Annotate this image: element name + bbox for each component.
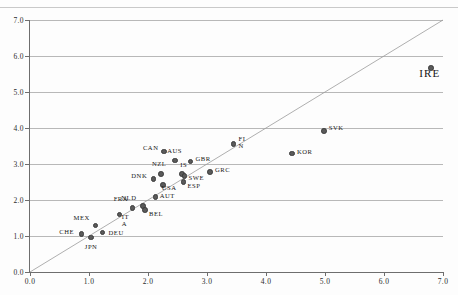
point-label-aut-9: AUT xyxy=(160,192,175,199)
data-point-che[interactable] xyxy=(79,231,85,237)
y-tick-label-4.0: 4.0 xyxy=(0,124,24,133)
point-label-n-21: N xyxy=(239,142,244,149)
point-label-grc-19: GRC xyxy=(215,166,230,173)
point-label-kor-23: KOR xyxy=(297,148,313,155)
y-tick-label-6.0: 6.0 xyxy=(0,52,24,61)
point-label-esp-17: ESP xyxy=(187,182,200,189)
point-label-can-13: CAN xyxy=(143,144,159,151)
point-label-is-15: IS xyxy=(180,161,187,168)
point-label-nzl-11: NZL xyxy=(152,160,166,167)
y-tick-2.0 xyxy=(25,200,30,201)
x-tick-label-1.0: 1.0 xyxy=(74,277,104,286)
y-tick-1.0 xyxy=(25,236,30,237)
data-point-svk[interactable] xyxy=(321,128,327,134)
point-label-a-5: A xyxy=(122,220,127,227)
y-tick-label-7.0: 7.0 xyxy=(0,16,24,25)
data-point-kor[interactable] xyxy=(289,151,295,157)
point-label-fi-20: FI xyxy=(239,135,246,142)
page-top-rule xyxy=(0,7,458,8)
x-tick-label-3.0: 3.0 xyxy=(192,277,222,286)
data-point-can[interactable] xyxy=(161,149,167,155)
x-tick-label-7.0: 7.0 xyxy=(428,277,458,286)
point-label-usa-12: USA xyxy=(162,184,177,191)
point-label-gbr-18: GBR xyxy=(195,155,210,162)
y-tick-7.0 xyxy=(25,20,30,21)
point-label-ire-24: IRE xyxy=(419,70,440,77)
point-label-mex-2: MEX xyxy=(73,214,89,221)
data-point-fi[interactable] xyxy=(231,141,237,147)
data-point-nzl[interactable] xyxy=(158,171,164,177)
x-tick-label-6.0: 6.0 xyxy=(369,277,399,286)
y-tick-5.0 xyxy=(25,92,30,93)
x-tick-label-4.0: 4.0 xyxy=(251,277,281,286)
gridline-y-2.0 xyxy=(30,200,443,201)
point-label-bel-8: BEL xyxy=(149,210,163,217)
point-label-jpn-1: JPN xyxy=(85,243,98,250)
gridline-y-6.0 xyxy=(30,56,443,57)
data-point-aut[interactable] xyxy=(153,194,159,200)
y-tick-4.0 xyxy=(25,128,30,129)
point-label-svk-22: SVK xyxy=(329,124,344,131)
data-point-aus[interactable] xyxy=(172,158,178,164)
point-label-che-0: CHE xyxy=(59,228,74,235)
gridline-y-7.0 xyxy=(30,20,443,21)
point-label-nld-7: NLD xyxy=(121,194,136,201)
gridline-y-4.0 xyxy=(30,128,443,129)
y-tick-label-5.0: 5.0 xyxy=(0,88,24,97)
x-tick-7.0 xyxy=(443,272,444,276)
x-tick-label-5.0: 5.0 xyxy=(310,277,340,286)
data-point-esp[interactable] xyxy=(181,179,187,185)
x-tick-label-0.0: 0.0 xyxy=(15,277,45,286)
x-tick-label-2.0: 2.0 xyxy=(133,277,163,286)
x-tick-0.0 xyxy=(30,272,31,276)
y-tick-label-0.0: 0.0 xyxy=(0,268,24,277)
data-point-bel[interactable] xyxy=(142,207,148,213)
gridline-y-3.0 xyxy=(30,164,443,165)
gridline-y-5.0 xyxy=(30,92,443,93)
point-label-dnk-10: DNK xyxy=(131,172,147,179)
point-label-deu-3: DEU xyxy=(109,229,124,236)
data-point-dnk[interactable] xyxy=(151,176,157,182)
y-tick-3.0 xyxy=(25,164,30,165)
x-axis xyxy=(29,272,444,273)
data-point-jpn[interactable] xyxy=(88,235,94,241)
y-tick-6.0 xyxy=(25,56,30,57)
scatter-chart: 0.01.02.03.04.05.06.07.0 0.01.02.03.04.0… xyxy=(0,0,458,295)
x-tick-4.0 xyxy=(266,272,267,276)
y-tick-label-3.0: 3.0 xyxy=(0,160,24,169)
x-tick-5.0 xyxy=(325,272,326,276)
x-tick-6.0 xyxy=(384,272,385,276)
x-tick-1.0 xyxy=(89,272,90,276)
point-label-it-4: IT xyxy=(122,213,129,220)
x-tick-3.0 xyxy=(207,272,208,276)
point-label-swe-16: SWE xyxy=(189,174,205,181)
y-tick-label-1.0: 1.0 xyxy=(0,232,24,241)
point-label-aus-14: AUS xyxy=(167,147,182,154)
data-point-grc[interactable] xyxy=(207,169,213,175)
y-tick-label-2.0: 2.0 xyxy=(0,196,24,205)
x-tick-2.0 xyxy=(148,272,149,276)
